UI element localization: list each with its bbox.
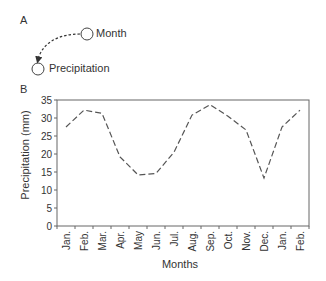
y-tick-label: 15 xyxy=(41,167,53,178)
x-tick-label: Jul. xyxy=(169,231,180,247)
x-tick-label: Sep. xyxy=(205,231,216,252)
x-tick-label: Dec. xyxy=(259,231,270,252)
x-tick-label: Jan. xyxy=(277,231,288,250)
x-tick-label: Apr. xyxy=(115,231,126,249)
x-tick-label: Aug. xyxy=(187,231,198,252)
series-line xyxy=(66,105,300,178)
x-tick-label: Oct. xyxy=(223,231,234,249)
y-tick-label: 10 xyxy=(41,185,53,196)
x-tick-label: Feb. xyxy=(79,231,90,251)
y-tick-label: 0 xyxy=(46,221,52,232)
y-axis-title: Precipitation (mm) xyxy=(19,110,31,199)
y-tick-label: 25 xyxy=(41,131,53,142)
y-tick-label: 20 xyxy=(41,149,53,160)
x-tick-label: Jan. xyxy=(61,231,72,250)
y-tick-label: 30 xyxy=(41,113,53,124)
x-tick-label: Nov. xyxy=(241,231,252,251)
x-tick-label: May xyxy=(133,231,144,250)
x-axis-title: Months xyxy=(162,258,199,270)
x-tick-label: Feb. xyxy=(295,231,306,251)
plot-frame xyxy=(57,100,309,226)
precipitation-line-chart: 05101520253035Jan.Feb.Mar.Apr.MayJun.Jul… xyxy=(0,0,326,281)
y-tick-label: 5 xyxy=(46,203,52,214)
y-tick-label: 35 xyxy=(41,95,53,106)
x-tick-label: Jun. xyxy=(151,231,162,250)
x-tick-label: Mar. xyxy=(97,231,108,250)
